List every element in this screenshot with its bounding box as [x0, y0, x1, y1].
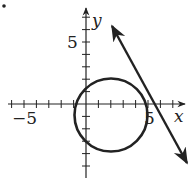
bullet-marker: [2, 4, 6, 8]
y-tick-label-5: 5: [67, 32, 78, 52]
x-tick-label-5: 5: [144, 108, 155, 128]
x-axis-label: x: [174, 106, 184, 126]
graph: 5 y −5 5 x: [0, 0, 190, 178]
y-axis-label: y: [91, 10, 102, 30]
tangent-line: [112, 26, 187, 163]
x-tick-label-neg5: −5: [12, 108, 37, 128]
